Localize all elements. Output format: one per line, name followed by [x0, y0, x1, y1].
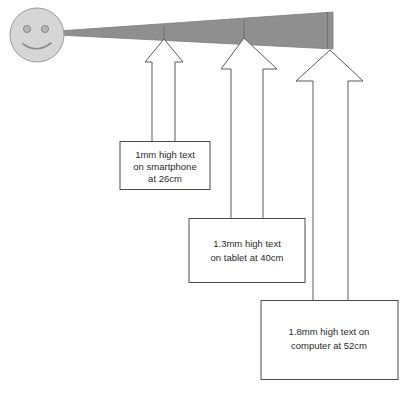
callout-tablet-line-1: 1.3mm high text — [213, 238, 281, 249]
visual-cone-beam — [58, 12, 333, 49]
visual-cone-group — [58, 12, 333, 49]
diagram-root: 1mm high text on smartphone at 26cm 1.3m… — [0, 0, 409, 397]
arrow-computer — [296, 50, 363, 301]
callout-box-computer: 1.8mm high text on computer at 52cm — [261, 301, 398, 380]
smiley-face-icon — [10, 8, 64, 62]
arrow-tablet — [221, 38, 277, 219]
callout-smartphone-line-1: 1mm high text — [135, 149, 195, 160]
callout-box-tablet-frame — [189, 219, 305, 283]
diagram-canvas: 1mm high text on smartphone at 26cm 1.3m… — [0, 0, 409, 397]
viewer-smiley-face — [10, 8, 64, 62]
callout-box-tablet: 1.3mm high text on tablet at 40cm — [189, 219, 305, 283]
callout-computer-line-2: computer at 52cm — [291, 340, 367, 351]
arrow-smartphone — [145, 39, 183, 142]
smiley-right-eye-icon — [41, 25, 48, 32]
callout-computer-line-1: 1.8mm high text on — [289, 326, 370, 337]
callout-smartphone-line-3: at 26cm — [148, 173, 182, 184]
callout-tablet-line-2: on tablet at 40cm — [211, 252, 284, 263]
callout-smartphone-line-2: on smartphone — [133, 161, 196, 172]
smiley-left-eye-icon — [23, 25, 30, 32]
callout-box-smartphone: 1mm high text on smartphone at 26cm — [120, 142, 210, 190]
